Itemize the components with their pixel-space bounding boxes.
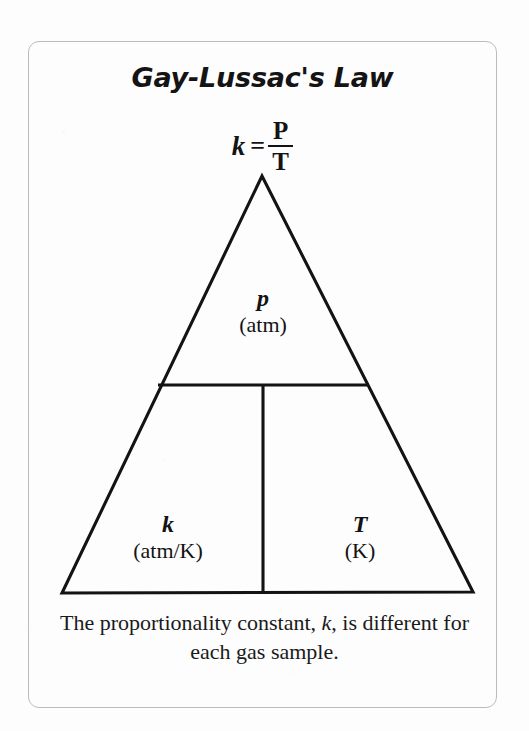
- triangle-cell-bottom-right-symbol: T: [295, 512, 425, 537]
- triangle-cell-bottom-left-unit: (atm/K): [98, 539, 238, 562]
- formula-lhs-symbol: k: [232, 133, 246, 160]
- triangle-cell-bottom-left: k (atm/K): [98, 512, 238, 563]
- formula-denominator: T: [269, 147, 292, 174]
- triangle-cell-bottom-left-symbol: k: [98, 512, 238, 537]
- caption-line1-after: , is: [331, 610, 357, 635]
- caption-line1-before: The proportionality constant,: [60, 610, 322, 635]
- formula-fraction: P T: [268, 118, 293, 174]
- triangle-cell-top-unit: (atm): [183, 313, 343, 336]
- triangle-cell-bottom-right: T (K): [295, 512, 425, 563]
- caption-italic-k: k: [322, 610, 332, 635]
- formula-numerator: P: [270, 118, 291, 145]
- card-caption: The proportionality constant, k, is diff…: [48, 608, 481, 666]
- formula-k-equals-p-over-t: k = P T: [29, 118, 496, 174]
- triangle-cell-top-symbol: p: [183, 286, 343, 311]
- triangle-cell-bottom-right-unit: (K): [295, 539, 425, 562]
- flashcard-page: Gay-Lussac's Law k = P T p (atm) k (atm/…: [0, 0, 529, 731]
- formula-equals-sign: =: [250, 133, 265, 159]
- page-title: Gay-Lussac's Law: [29, 62, 496, 93]
- triangle-cell-top: p (atm): [183, 286, 343, 337]
